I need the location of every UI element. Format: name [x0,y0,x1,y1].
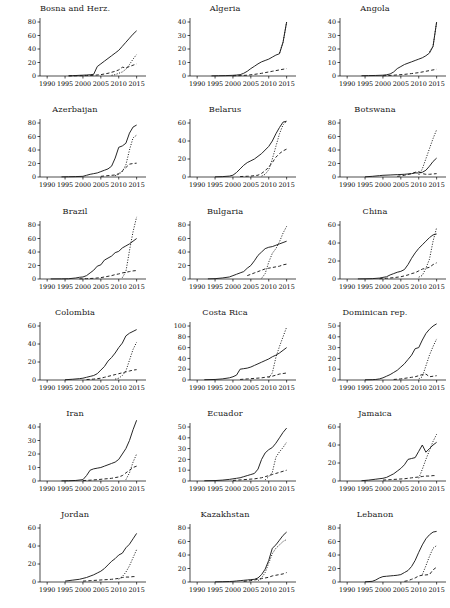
y-tick-label: 0 [182,579,186,587]
chart-panel: Botswana02040608019901995200020052010201… [300,101,450,202]
y-tick-label: 0 [32,173,36,181]
x-tick-label: 2005 [93,80,109,88]
series-line-dashed [83,577,137,582]
y-tick-label: 20 [28,561,36,569]
x-tick-label: 1995 [357,383,373,391]
x-tick-label: 2000 [225,80,241,88]
y-tick-label: 80 [328,119,336,127]
x-tick-label: 1995 [207,282,223,290]
panel-plot: 020406080199019952000200520102015 [0,203,150,304]
x-tick-label: 2000 [225,485,241,493]
series-line-solid [365,532,437,582]
x-tick-label: 2010 [261,80,277,88]
x-tick-label: 1995 [57,485,73,493]
panel-plot: 020406080199019952000200520102015 [300,506,450,607]
y-tick-label: 20 [328,257,336,265]
y-tick-label: 0 [32,477,36,485]
y-tick-label: 0 [332,72,336,80]
y-tick-label: 60 [28,133,36,141]
x-tick-label: 2015 [128,586,144,594]
series-line-dashed [83,466,137,480]
series-line-solid [358,234,437,279]
x-tick-label: 2000 [375,80,391,88]
x-tick-label: 2005 [243,586,259,594]
x-tick-label: 2015 [278,181,294,189]
x-tick-label: 2010 [261,181,277,189]
x-tick-label: 1990 [39,586,55,594]
series-line-dotted [265,442,286,480]
series-line-dotted [262,226,287,278]
y-tick-label: 20 [328,354,336,362]
x-tick-label: 1995 [57,181,73,189]
panel-plot: 0204060199019952000200520102015 [300,203,450,304]
x-tick-label: 2010 [411,485,427,493]
chart-panel: Kazakhstan020406080199019952000200520102… [150,506,300,607]
x-tick-label: 2010 [261,383,277,391]
x-tick-label: 2015 [428,586,444,594]
series-line-dashed [247,264,286,275]
x-tick-label: 1990 [39,383,55,391]
panel-plot: 01020304050199019952000200520102015 [300,304,450,405]
y-tick-label: 60 [178,119,186,127]
y-tick-label: 40 [178,354,186,362]
y-tick-label: 40 [178,18,186,26]
x-tick-label: 2000 [375,181,391,189]
y-tick-label: 40 [28,423,36,431]
y-tick-label: 60 [28,234,36,242]
y-tick-label: 40 [328,441,336,449]
x-tick-label: 2005 [393,80,409,88]
x-tick-label: 2005 [393,383,409,391]
x-tick-label: 2010 [411,383,427,391]
series-line-dashed [240,373,287,379]
series-line-solid [215,121,287,177]
x-tick-label: 1990 [339,181,355,189]
chart-panel: Lebanon020406080199019952000200520102015 [300,506,450,607]
y-tick-label: 40 [178,248,186,256]
x-tick-label: 2005 [93,181,109,189]
series-line-dashed [233,470,287,480]
x-tick-label: 2015 [128,383,144,391]
chart-panel: China0204060199019952000200520102015 [300,203,450,304]
y-tick-label: 20 [28,59,36,67]
x-tick-label: 1995 [207,485,223,493]
series-line-solid [208,241,287,279]
series-line-dotted [262,121,287,176]
y-tick-label: 0 [182,173,186,181]
x-tick-label: 2015 [278,282,294,290]
y-tick-label: 20 [178,261,186,269]
x-tick-label: 2015 [128,181,144,189]
x-tick-label: 2010 [261,282,277,290]
x-tick-label: 2010 [411,282,427,290]
y-tick-label: 40 [328,18,336,26]
x-tick-label: 2000 [75,383,91,391]
x-tick-label: 2000 [75,282,91,290]
y-tick-label: 0 [332,477,336,485]
chart-panel: Costa Rica020406080100199019952000200520… [150,304,300,405]
y-tick-label: 40 [328,552,336,560]
y-tick-label: 80 [28,119,36,127]
x-tick-label: 2010 [111,181,127,189]
x-tick-label: 1995 [57,383,73,391]
series-line-dashed [383,476,437,481]
x-tick-label: 1995 [357,282,373,290]
chart-panel: Bulgaria02040608019901995200020052010201… [150,203,300,304]
x-tick-label: 2005 [243,282,259,290]
x-tick-label: 1990 [339,586,355,594]
panel-plot: 020406080199019952000200520102015 [150,203,300,304]
y-tick-label: 20 [28,160,36,168]
x-tick-label: 2000 [375,383,391,391]
panel-plot: 020406080199019952000200520102015 [300,101,450,202]
y-tick-label: 0 [332,376,336,384]
x-tick-label: 1995 [357,586,373,594]
x-tick-label: 2015 [278,485,294,493]
y-tick-label: 100 [174,322,186,330]
panel-plot: 010203040199019952000200520102015 [0,405,150,506]
x-tick-label: 1995 [207,383,223,391]
panel-plot: 020406080199019952000200520102015 [0,0,150,101]
x-tick-label: 2015 [128,485,144,493]
chart-panel: Bosna and Herz.0204060801990199520002005… [0,0,150,101]
y-tick-label: 40 [178,552,186,560]
panel-plot: 010203040199019952000200520102015 [150,0,300,101]
y-tick-label: 60 [328,221,336,229]
y-tick-label: 0 [32,72,36,80]
